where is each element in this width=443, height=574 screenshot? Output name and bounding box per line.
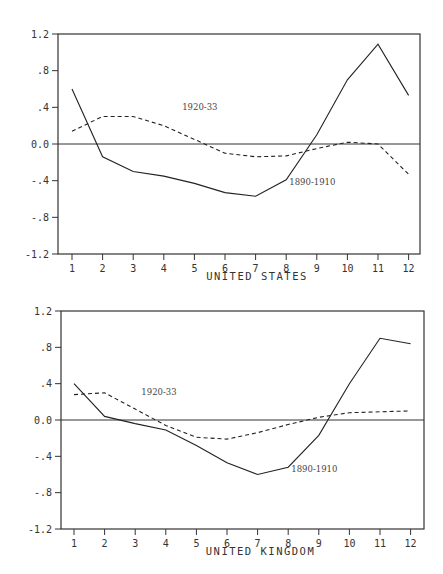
x-tick-label: 9 xyxy=(314,263,320,274)
series-annotation: 1890-1910 xyxy=(291,464,337,474)
series-line-1890-1910 xyxy=(72,44,409,196)
x-tick-label: 5 xyxy=(193,538,199,549)
chart-united-states: 1.2.8.40.0-.4-.8-1.2123456789101112UNITE… xyxy=(25,29,420,283)
x-tick-label: 2 xyxy=(102,538,108,549)
x-axis-label: UNITED STATES xyxy=(206,270,308,282)
y-tick-label: 1.2 xyxy=(31,29,49,40)
y-tick-label: 0.0 xyxy=(31,139,49,150)
seasonal-charts: 1.2.8.40.0-.4-.8-1.2123456789101112UNITE… xyxy=(0,0,443,574)
y-tick-label: -.4 xyxy=(31,175,49,186)
x-tick-label: 10 xyxy=(341,263,353,274)
x-tick-label: 4 xyxy=(161,263,167,274)
x-tick-label: 3 xyxy=(132,538,138,549)
y-tick-label: -.4 xyxy=(34,451,52,462)
x-tick-label: 12 xyxy=(403,263,415,274)
x-tick-label: 11 xyxy=(374,538,386,549)
series-line-1920-33 xyxy=(72,117,409,175)
x-tick-label: 9 xyxy=(316,538,322,549)
y-tick-label: .4 xyxy=(40,378,52,389)
series-line-1920-33 xyxy=(74,393,411,439)
x-tick-label: 2 xyxy=(100,263,106,274)
series-annotation: 1890-1910 xyxy=(289,177,335,187)
x-tick-label: 3 xyxy=(130,263,136,274)
series-line-1890-1910 xyxy=(74,338,411,474)
y-tick-label: .8 xyxy=(37,65,49,76)
x-tick-label: 12 xyxy=(405,538,417,549)
y-tick-label: .8 xyxy=(40,342,52,353)
y-tick-label: .4 xyxy=(37,102,49,113)
y-tick-label: -.8 xyxy=(31,212,49,223)
y-tick-label: 1.2 xyxy=(34,306,52,317)
x-tick-label: 4 xyxy=(163,538,169,549)
x-tick-label: 5 xyxy=(191,263,197,274)
x-tick-label: 11 xyxy=(372,263,384,274)
x-tick-label: 10 xyxy=(343,538,355,549)
x-tick-label: 1 xyxy=(71,538,77,549)
y-tick-label: -1.2 xyxy=(25,249,49,260)
y-tick-label: -.8 xyxy=(34,487,52,498)
series-annotation: 1920-33 xyxy=(141,387,176,397)
series-annotation: 1920-33 xyxy=(182,102,217,112)
chart-united-kingdom: 1.2.8.40.0-.4-.8-1.2123456789101112UNITE… xyxy=(28,306,424,558)
y-tick-label: -1.2 xyxy=(28,524,52,535)
x-axis-label: UNITED KINGDOM xyxy=(206,545,316,557)
x-tick-label: 1 xyxy=(69,263,75,274)
y-tick-label: 0.0 xyxy=(34,415,52,426)
